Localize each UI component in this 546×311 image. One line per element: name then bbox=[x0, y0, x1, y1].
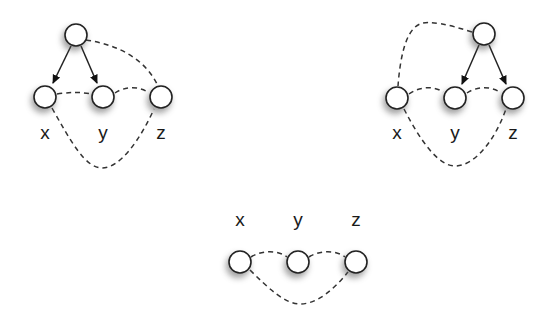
node-y bbox=[89, 86, 114, 113]
diagram-left: x y z bbox=[31, 24, 172, 168]
arrow-top-y bbox=[81, 46, 97, 83]
node-top bbox=[62, 24, 87, 51]
label-x: x bbox=[392, 122, 402, 143]
diagram-right: x y z bbox=[383, 23, 524, 166]
arrow-top-y bbox=[462, 45, 479, 84]
node-top bbox=[470, 23, 495, 50]
label-x: x bbox=[235, 209, 245, 230]
edge-y-z bbox=[309, 252, 345, 257]
node-y bbox=[441, 87, 466, 114]
node-x bbox=[226, 251, 251, 278]
node-y bbox=[284, 251, 309, 278]
arrow-top-x bbox=[53, 46, 71, 83]
label-z: z bbox=[351, 209, 361, 230]
edge-y-z bbox=[115, 88, 149, 93]
label-x: x bbox=[40, 122, 50, 143]
label-y: y bbox=[450, 122, 460, 143]
node-z bbox=[147, 86, 172, 113]
causal-diagrams-figure: x y z x y z x y z bbox=[0, 0, 546, 311]
label-y: y bbox=[98, 122, 108, 143]
label-z: z bbox=[156, 122, 166, 143]
edge-y-z bbox=[467, 88, 501, 93]
node-z bbox=[499, 87, 524, 114]
edge-x-y bbox=[57, 93, 91, 95]
edge-top-z bbox=[86, 40, 157, 84]
arrow-top-z bbox=[489, 45, 506, 84]
edge-x-y bbox=[409, 88, 443, 94]
edge-x-y bbox=[251, 252, 287, 257]
label-z: z bbox=[508, 122, 518, 143]
node-z bbox=[342, 251, 367, 278]
edge-top-x bbox=[398, 23, 472, 86]
diagram-bottom: x y z bbox=[226, 209, 367, 304]
label-y: y bbox=[293, 209, 303, 230]
